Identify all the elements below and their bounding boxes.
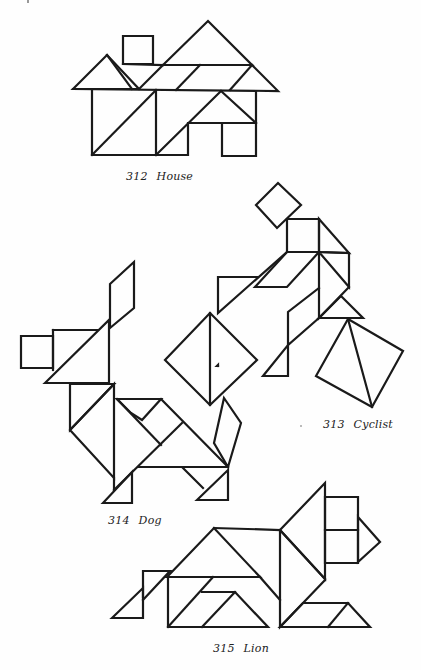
cyclist-foot-triangle (263, 345, 288, 376)
lion-mane-triangle (280, 483, 325, 579)
cyclist-head-diamond (256, 183, 301, 228)
dog-hind-foot-triangle (197, 470, 228, 500)
house-top-roof-triangle (163, 21, 252, 65)
dog-ear-parallelogram (110, 262, 134, 328)
dog-hind-leg-edge (183, 468, 203, 488)
dog-front-foot-triangle (103, 472, 132, 503)
lion-rear-triangle-edge (202, 592, 235, 627)
figure-title: Cyclist (354, 418, 393, 431)
tangram-cyclist (165, 183, 403, 407)
lion-flank-diagonal (260, 577, 280, 600)
figure-number: 312 (126, 170, 148, 183)
lion-rear-outline (168, 577, 268, 627)
dog-chest-triangle (70, 384, 114, 478)
house-roof-parallelogram-edge (230, 65, 252, 90)
dog-back-square (117, 399, 161, 420)
lion-paw-divider (328, 603, 348, 627)
tangram-figures (0, 0, 421, 670)
figure-number: 313 (323, 418, 345, 431)
cyclist-torso-square (287, 219, 319, 252)
house-roof-diagonal (107, 55, 132, 89)
cyclist-back-parallelogram (255, 252, 319, 287)
caption-cyclist: 313Cyclist (323, 418, 393, 431)
house-door-triangle-edge (221, 91, 256, 123)
figure-number: 315 (213, 642, 235, 655)
tangram-lion (112, 483, 380, 627)
house-roof-diagonal (139, 65, 163, 89)
lion-back-line (214, 528, 280, 530)
house-wall-diagonal (92, 90, 156, 155)
lion-paw-shape (280, 603, 370, 627)
tangram-dog (21, 262, 241, 503)
lion-face-square-bottom (325, 530, 358, 563)
figure-title: House (157, 170, 193, 183)
caption-dog: 314Dog (108, 514, 162, 527)
figure-title: Dog (139, 514, 162, 527)
house-chimney-square (123, 36, 153, 64)
lion-tail-triangle (112, 588, 143, 618)
dog-snout-square (21, 336, 53, 368)
house-roof-parallelogram-edge (176, 65, 200, 90)
cyclist-leg-upper (319, 252, 349, 318)
cyclist-leg-parallelogram (288, 288, 319, 345)
book-page: 312House 313Cyclist 314Dog 315Lion (0, 0, 421, 670)
cyclist-shoulder-triangle (319, 219, 349, 253)
cyclist-seat-triangle (218, 252, 287, 313)
cyclist-knee-triangle (319, 296, 363, 318)
cyclist-arm-triangle (319, 252, 349, 287)
lion-nose-triangle (358, 517, 380, 562)
lion-face-square-top (325, 497, 358, 530)
figure-title: Lion (244, 642, 269, 655)
lion-rear-diagonal (168, 577, 213, 627)
lion-back-triangle (167, 528, 260, 577)
lion-front-leg (280, 530, 325, 627)
lion-chest-diagonal (280, 530, 325, 579)
figure-number: 314 (108, 514, 130, 527)
lion-tail-square (143, 571, 170, 600)
caption-lion: 315Lion (213, 642, 269, 655)
house-roof-line (123, 64, 163, 65)
caption-house: 312House (126, 170, 193, 183)
cyclist-rear-wheel-divider (348, 319, 372, 407)
tangram-house (73, 21, 278, 156)
